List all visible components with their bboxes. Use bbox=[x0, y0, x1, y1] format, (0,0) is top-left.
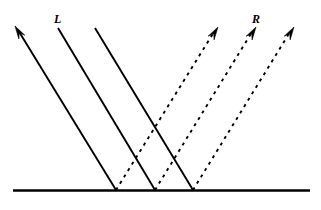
incident-ray-1 bbox=[18, 30, 116, 190]
reflected-ray-3 bbox=[193, 32, 290, 190]
ray-diagram-canvas bbox=[0, 0, 321, 210]
reflected-ray-3-arrowhead bbox=[284, 27, 294, 40]
ray-diagram-figure: L R bbox=[0, 0, 321, 210]
incident-ray-label: L bbox=[54, 13, 61, 25]
incident-ray-2 bbox=[58, 28, 155, 190]
reflected-ray-1 bbox=[116, 32, 214, 190]
reflected-ray-label: R bbox=[252, 13, 260, 25]
reflected-ray-2-arrowhead bbox=[246, 27, 256, 40]
reflected-ray-1-arrowhead bbox=[208, 27, 218, 40]
incident-ray-group bbox=[15, 26, 193, 190]
reflected-ray-2 bbox=[155, 32, 252, 190]
incident-ray-3 bbox=[95, 28, 193, 190]
